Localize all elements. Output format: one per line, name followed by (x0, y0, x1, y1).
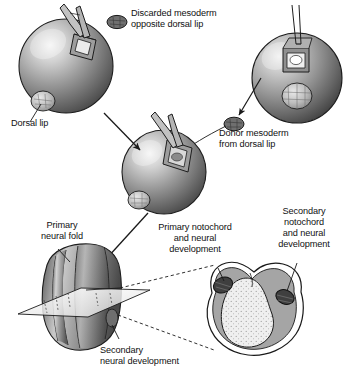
grafted-embryo (122, 112, 206, 214)
donor-dorsal-lip (282, 83, 312, 109)
host-embryo (19, 4, 113, 122)
label-secondary-neural-development: Secondary neural development (100, 345, 179, 367)
label-donor-mesoderm: Donor mesoderm from dorsal lip (219, 128, 289, 150)
label-dorsal-lip: Dorsal lip (11, 118, 48, 129)
label-secondary-notochord: Secondary notochord and neural developme… (265, 206, 343, 250)
discarded-mesoderm-blob (107, 15, 127, 28)
diagram-root: Discarded mesoderm opposite dorsal lip D… (0, 0, 347, 379)
expansion-lines (118, 265, 215, 350)
arrow-host-to-graft (104, 113, 140, 150)
host-dorsal-lip (31, 91, 55, 111)
grafted-dorsal-lip (128, 191, 150, 209)
section-plane (18, 288, 150, 317)
neurula-embryo (18, 244, 150, 350)
label-discarded-mesoderm: Discarded mesoderm opposite dorsal lip (131, 8, 217, 30)
diagram-canvas (0, 0, 347, 379)
label-primary-notochord: Primary notochord and neural development (143, 222, 247, 255)
secondary-neural-fold-bump (106, 309, 118, 327)
arrow-graft-to-neurula (107, 213, 148, 258)
donor-embryo (252, 5, 342, 123)
donor-excision-site (283, 38, 312, 72)
label-primary-neural-fold: Primary neural fold (27, 220, 97, 242)
